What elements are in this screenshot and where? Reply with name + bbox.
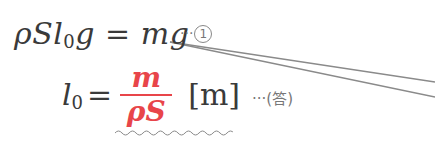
rho-symbol: ρ <box>14 16 32 51</box>
answer-fraction: m ρS <box>120 64 172 126</box>
fraction-denominator: ρS <box>127 96 166 126</box>
equals-sign: = <box>105 16 131 51</box>
area-symbol: S <box>32 16 53 51</box>
equals-sign: = <box>87 77 112 112</box>
length-subscript: 0 <box>63 31 75 52</box>
marker-dots: ··· <box>180 25 193 41</box>
answer-marker: ···(答) <box>252 87 293 108</box>
circled-number: 1 <box>194 25 212 43</box>
length-symbol: l <box>62 77 72 112</box>
unit-label: [m] <box>188 77 240 112</box>
length-symbol: l <box>53 16 63 51</box>
equation-1: ρSl0g = mg <box>14 16 189 52</box>
gravity-symbol: g <box>75 16 95 51</box>
answer-dots: ··· <box>252 90 266 108</box>
wavy-underline <box>115 128 233 138</box>
answer-label: (答) <box>266 90 293 108</box>
equation-marker-1: ···1 <box>180 25 212 43</box>
length-subscript: 0 <box>72 92 83 113</box>
fraction-numerator: m <box>127 64 165 94</box>
equation-2: l0 = m ρS [m] <box>62 64 240 126</box>
